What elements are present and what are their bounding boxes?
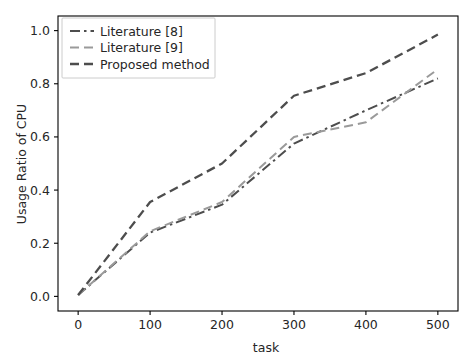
chart-legend[interactable]: Literature [8]Literature [9]Proposed met… <box>62 18 215 78</box>
x-tick-label: 0 <box>74 317 82 332</box>
y-tick-label: 0.0 <box>30 289 50 304</box>
x-tick-label: 200 <box>210 317 234 332</box>
y-tick-label: 0.6 <box>30 129 50 144</box>
y-tick-label: 0.2 <box>30 236 50 251</box>
chart-figure: 0100200300400500 0.00.20.40.60.81.0 task… <box>0 0 472 361</box>
x-axis-label: task <box>253 340 280 355</box>
y-tick-label: 0.8 <box>30 76 50 91</box>
x-tick-label: 500 <box>426 317 450 332</box>
y-tick-label: 0.4 <box>30 183 50 198</box>
x-tick-label: 300 <box>282 317 306 332</box>
legend-label-2: Proposed method <box>100 57 210 72</box>
cpu-usage-line-chart: 0100200300400500 0.00.20.40.60.81.0 task… <box>0 0 472 361</box>
x-tick-label: 400 <box>354 317 378 332</box>
y-axis-label: Usage Ratio of CPU <box>14 104 29 224</box>
y-tick-label: 1.0 <box>30 23 50 38</box>
x-tick-label: 100 <box>138 317 162 332</box>
legend-label-0: Literature [8] <box>100 24 183 39</box>
legend-label-1: Literature [9] <box>100 40 183 55</box>
